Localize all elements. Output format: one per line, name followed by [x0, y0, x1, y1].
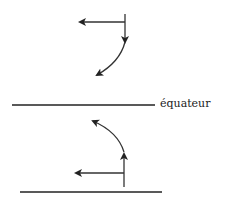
southern-hemisphere-arrows: [76, 121, 124, 187]
south-deflection-curve-arrow: [93, 121, 124, 152]
north-deflection-curve-arrow: [97, 42, 125, 75]
northern-hemisphere-arrows: [80, 14, 125, 75]
coriolis-diagram: équateur: [0, 0, 227, 204]
equator-label: équateur: [160, 97, 210, 110]
